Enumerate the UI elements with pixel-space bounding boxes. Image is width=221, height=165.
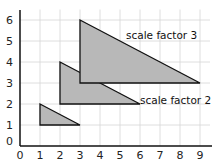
x-tick-label: 8 bbox=[177, 149, 184, 162]
y-tick-label: 0 bbox=[6, 135, 13, 148]
x-tick-label: 2 bbox=[57, 149, 64, 162]
x-tick-label: 7 bbox=[157, 149, 164, 162]
y-tick-label: 4 bbox=[6, 56, 13, 69]
x-tick-label: 1 bbox=[37, 149, 44, 162]
x-tick-label: 0 bbox=[17, 149, 24, 162]
y-tick-label: 1 bbox=[6, 119, 13, 132]
x-tick-label: 3 bbox=[77, 149, 84, 162]
x-tick-label: 5 bbox=[117, 149, 124, 162]
y-tick-label: 2 bbox=[6, 98, 13, 111]
y-tick-label: 3 bbox=[6, 77, 13, 90]
shape-label: scale factor 2 bbox=[140, 94, 211, 106]
x-tick-label: 6 bbox=[137, 149, 144, 162]
enlargement-diagram: 01234567890123456 scale factor 3scale fa… bbox=[0, 0, 221, 165]
y-tick-label: 5 bbox=[6, 35, 13, 48]
y-tick-label: 6 bbox=[6, 14, 13, 27]
shape-label: scale factor 3 bbox=[126, 29, 197, 41]
x-tick-label: 4 bbox=[97, 149, 104, 162]
x-tick-label: 9 bbox=[197, 149, 204, 162]
